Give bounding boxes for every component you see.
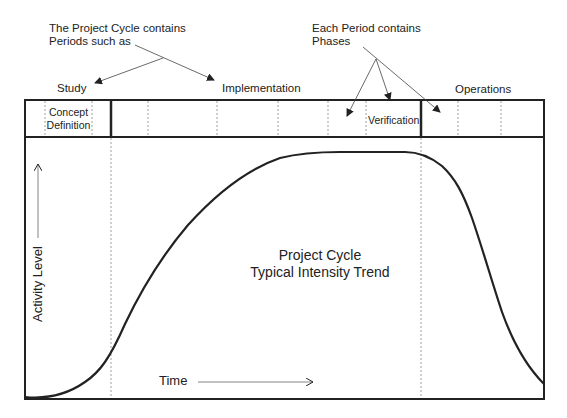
phases-note-line2: Phases [312, 35, 421, 48]
chart-title: Project Cycle Typical Intensity Trend [220, 247, 420, 281]
phase-label-verification: Verification [368, 114, 419, 127]
phase-label-concept-definition: Concept Definition [45, 106, 92, 132]
chart-title-line2: Typical Intensity Trend [220, 264, 420, 281]
period-band [25, 100, 544, 137]
periods-note-line1: The Project Cycle contains [49, 22, 186, 35]
x-axis-label: Time [159, 374, 187, 387]
period-label-study: Study [57, 82, 86, 95]
y-axis-label: Activity Level [30, 246, 45, 322]
phases-note: Each Period contains Phases [312, 22, 421, 48]
periods-note-line2: Periods such as [49, 35, 186, 48]
project-cycle-diagram [0, 0, 567, 418]
period-label-operations: Operations [455, 83, 511, 96]
chart-title-line1: Project Cycle [220, 247, 420, 264]
period-label-implementation: Implementation [222, 82, 301, 95]
phases-arrows [347, 47, 440, 116]
phase-label-concept: Concept [45, 106, 92, 119]
phase-label-definition: Definition [45, 119, 92, 132]
periods-arrows [95, 45, 214, 83]
phases-note-line1: Each Period contains [312, 22, 421, 35]
periods-note: The Project Cycle contains Periods such … [49, 22, 186, 48]
